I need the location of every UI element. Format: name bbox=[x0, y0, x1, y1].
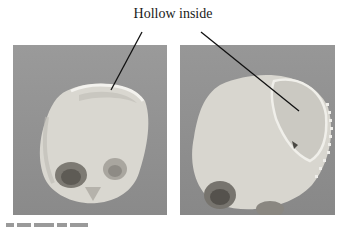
annotation-arrows bbox=[0, 0, 346, 229]
arrow-left bbox=[111, 32, 142, 90]
arrow-right bbox=[201, 32, 299, 111]
figure-caption-partial bbox=[6, 220, 166, 229]
